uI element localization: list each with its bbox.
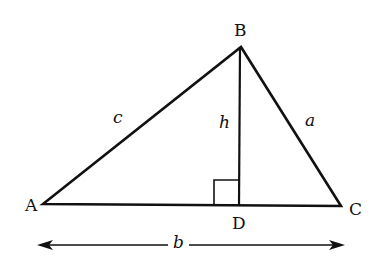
vertex-label-a: A [25, 197, 37, 214]
side-label-c: c [113, 109, 123, 126]
vertex-label-c: C [349, 201, 362, 218]
triangle-diagram: A B C D c a h b [0, 0, 374, 259]
base-length-label-b: b [173, 234, 184, 251]
diagram-lines [0, 0, 374, 259]
vertex-label-b: B [234, 22, 247, 39]
altitude-bd [239, 47, 240, 205]
triangle-abc [43, 47, 341, 206]
right-angle-marker [214, 180, 239, 205]
vertex-label-d: D [232, 215, 246, 232]
side-label-a: a [305, 112, 315, 129]
altitude-label-h: h [219, 114, 230, 131]
